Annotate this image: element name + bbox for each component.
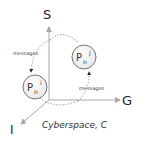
cyberspace-diagram: S G I P n i P n j messages messages Cybe…	[0, 0, 144, 147]
node-p-n-j: P n j	[72, 45, 96, 69]
diagram-caption: Cyberspace, C	[42, 120, 108, 130]
node-p-n-i: P n i	[23, 75, 47, 99]
g-axis-label: G	[122, 93, 132, 108]
i-axis-label: I	[10, 123, 14, 137]
left-message-path	[31, 40, 50, 72]
upper-dotted-arc	[50, 34, 78, 42]
left-messages-label: messages	[13, 50, 38, 57]
node-sub: n	[34, 88, 38, 95]
lower-dotted-arc	[40, 98, 78, 105]
node-sup: j	[88, 49, 91, 57]
right-messages-label: messages	[79, 85, 104, 92]
node-base: P	[27, 82, 33, 93]
s-axis-label: S	[43, 7, 51, 22]
node-base: P	[76, 52, 82, 63]
node-sub: n	[83, 58, 87, 65]
